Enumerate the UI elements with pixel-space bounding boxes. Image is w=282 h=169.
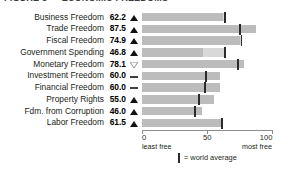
bar-fill <box>142 83 220 91</box>
bar-track <box>142 48 272 56</box>
world-average-marker <box>194 106 196 117</box>
bar-track <box>142 13 272 21</box>
world-average-marker <box>198 94 200 105</box>
row-value: 61.5 <box>104 117 126 129</box>
trend-down-icon <box>128 59 140 71</box>
bar-track <box>142 107 272 115</box>
chart-row: Labor Freedom61.5 <box>0 117 282 129</box>
world-average-marker <box>224 12 226 23</box>
bar-track <box>142 83 272 91</box>
world-average-marker <box>205 71 207 82</box>
chart-row: Financial Freedom60.0 <box>0 82 282 94</box>
bar-fill <box>142 36 240 44</box>
row-label: Monetary Freedom <box>0 59 104 71</box>
world-average-marker <box>221 118 223 129</box>
bar-fill <box>142 48 203 56</box>
legend-label: = world average <box>184 153 237 163</box>
economic-freedoms-chart: FIGURE 3 — ECONOMIC FREEDOMS Business Fr… <box>0 0 282 169</box>
bar-track <box>142 95 272 103</box>
row-value: 74.9 <box>104 35 126 47</box>
chart-row: Monetary Freedom78.1 <box>0 59 282 71</box>
bar-fill <box>142 72 220 80</box>
trend-up-icon <box>128 12 140 24</box>
axis-caption-most-free: most free <box>242 142 272 151</box>
world-average-marker <box>241 35 243 46</box>
axis-caption-least-free: least free <box>142 142 172 151</box>
trend-up-icon <box>128 35 140 47</box>
bar-fill <box>142 13 223 21</box>
row-value: 87.5 <box>104 23 126 35</box>
axis-tick-label: 50 <box>203 133 211 142</box>
bar-beyond-average <box>203 48 225 56</box>
chart-row: Property Rights55.0 <box>0 94 282 106</box>
world-average-marker <box>237 59 239 70</box>
row-label: Property Rights <box>0 94 104 106</box>
row-label: Labor Freedom <box>0 117 104 129</box>
trend-up-icon <box>128 94 140 106</box>
bar-fill <box>142 95 214 103</box>
world-average-marker <box>224 47 226 58</box>
row-label: Government Spending <box>0 47 104 59</box>
row-value: 46.0 <box>104 106 126 118</box>
row-label: Investment Freedom <box>0 70 104 82</box>
row-label: Fiscal Freedom <box>0 35 104 47</box>
axis-tick-label: 100 <box>260 133 273 142</box>
row-label: Fdm. from Corruption <box>0 106 104 118</box>
chart-row: Fiscal Freedom74.9 <box>0 35 282 47</box>
chart-row: Trade Freedom87.5 <box>0 23 282 35</box>
bar-track <box>142 72 272 80</box>
trend-up-icon <box>128 47 140 59</box>
chart-row: Investment Freedom60.0 <box>0 70 282 82</box>
row-label: Business Freedom <box>0 12 104 24</box>
chart-row: Government Spending46.8 <box>0 47 282 59</box>
row-value: 62.2 <box>104 12 126 24</box>
row-value: 60.0 <box>104 70 126 82</box>
bar-track <box>142 36 272 44</box>
row-value: 78.1 <box>104 59 126 71</box>
world-average-marker <box>204 82 206 93</box>
trend-up-icon <box>128 117 140 129</box>
bar-track <box>142 60 272 68</box>
row-value: 55.0 <box>104 94 126 106</box>
trend-up-icon <box>128 23 140 35</box>
trend-flat-icon <box>128 82 140 94</box>
axis-tick-label: 0 <box>142 133 146 142</box>
trend-up-icon <box>128 106 140 118</box>
row-label: Financial Freedom <box>0 82 104 94</box>
chart-title: FIGURE 3 — ECONOMIC FREEDOMS <box>4 0 168 3</box>
world-average-marker <box>239 24 241 35</box>
row-value: 60.0 <box>104 82 126 94</box>
row-label: Trade Freedom <box>0 23 104 35</box>
chart-row: Fdm. from Corruption46.0 <box>0 106 282 118</box>
bar-track <box>142 119 272 127</box>
chart-row: Business Freedom62.2 <box>0 12 282 24</box>
world-average-tick-icon <box>178 153 180 163</box>
bar-fill <box>142 60 244 68</box>
bar-fill <box>142 119 222 127</box>
row-value: 46.8 <box>104 47 126 59</box>
bar-track <box>142 25 272 33</box>
trend-flat-icon <box>128 70 140 82</box>
